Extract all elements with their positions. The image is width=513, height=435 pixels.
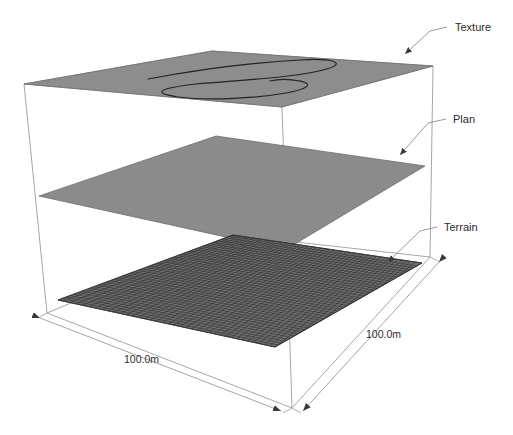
dimension-extension-front-right xyxy=(292,408,301,413)
annotation-plan[interactable]: Plan xyxy=(400,113,475,155)
dimension-extension-right xyxy=(430,257,440,262)
layer-terrain[interactable] xyxy=(58,235,422,387)
label-terrain: Terrain xyxy=(444,221,478,233)
dimension-extension-front-left xyxy=(283,408,292,413)
annotation-terrain[interactable]: Terrain xyxy=(388,221,478,262)
dimension-label-depth: 100.0m xyxy=(366,328,401,340)
box-edge-left-vertical xyxy=(24,84,47,313)
label-texture: Texture xyxy=(455,21,491,33)
plan-plane xyxy=(39,136,425,250)
three-layer-terrain-diagram: Texture Plan Terrain 100.0m 100.0m xyxy=(0,0,513,435)
dimension-label-width: 100.0m xyxy=(124,353,159,365)
layer-plan[interactable] xyxy=(39,136,425,250)
label-plan: Plan xyxy=(453,113,475,125)
layer-texture[interactable] xyxy=(24,51,433,107)
leader-line-plan xyxy=(400,119,446,155)
dimension-extension-left xyxy=(38,313,47,318)
annotation-texture[interactable]: Texture xyxy=(405,21,491,54)
leader-line-texture xyxy=(405,27,447,54)
